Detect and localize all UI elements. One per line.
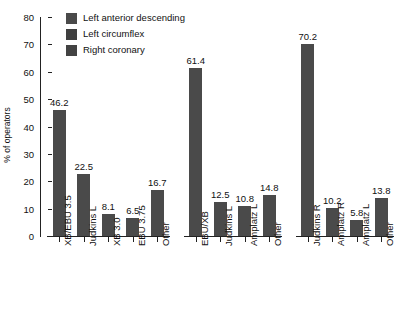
bar-value-label: 16.7 xyxy=(141,178,173,188)
legend-label: Left circumflex xyxy=(83,29,144,39)
bar-value-label: 14.8 xyxy=(253,183,285,193)
x-category-label: EBU 3.75 xyxy=(137,205,147,246)
y-tick-label: 10 xyxy=(12,204,34,214)
y-tick-mark xyxy=(48,127,52,128)
x-tick-mark xyxy=(59,237,60,242)
y-tick-label: 70 xyxy=(12,40,34,50)
x-category-label: XB 3.0 xyxy=(112,217,122,246)
chart-legend: Left anterior descendingLeft circumflexR… xyxy=(66,10,185,58)
x-category-label: Other xyxy=(273,222,283,246)
legend-item: Left anterior descending xyxy=(66,10,185,26)
y-tick-label: 80 xyxy=(12,13,34,23)
bar-value-label: 22.5 xyxy=(68,162,100,172)
x-tick-mark xyxy=(108,237,109,242)
y-tick-mark xyxy=(48,209,52,210)
y-tick-mark xyxy=(48,72,52,73)
y-axis-title: % of operators xyxy=(2,90,12,180)
x-tick-mark xyxy=(84,237,85,242)
legend-label: Right coronary xyxy=(83,45,145,55)
y-tick-label: 30 xyxy=(12,149,34,159)
legend-item: Left circumflex xyxy=(66,26,185,42)
bar-value-label: 46.2 xyxy=(43,98,75,108)
x-tick-mark xyxy=(220,237,221,242)
x-category-label: Amplatz L xyxy=(361,204,371,246)
x-tick-mark xyxy=(269,237,270,242)
y-tick-label: 40 xyxy=(12,122,34,132)
x-category-label: EBU/XB xyxy=(200,211,210,246)
x-category-label: Amplatz L xyxy=(249,204,259,246)
x-category-label: Other xyxy=(385,222,395,246)
y-tick-mark xyxy=(48,17,52,18)
y-tick-label: 60 xyxy=(12,67,34,77)
legend-swatch xyxy=(66,13,77,24)
y-tick-label: 50 xyxy=(12,95,34,105)
x-category-label: Judkins L xyxy=(224,206,234,246)
x-category-label: Judkins L xyxy=(88,206,98,246)
x-tick-mark xyxy=(245,237,246,242)
x-tick-mark xyxy=(133,237,134,242)
bar-value-label: 13.8 xyxy=(365,186,397,196)
y-axis-line xyxy=(40,17,41,237)
legend-swatch xyxy=(66,45,77,56)
x-category-label: Other xyxy=(161,222,171,246)
x-tick-mark xyxy=(308,237,309,242)
x-tick-mark xyxy=(157,237,158,242)
x-category-label: Judkins R xyxy=(312,204,322,246)
bar-value-label: 70.2 xyxy=(292,32,324,42)
x-tick-mark xyxy=(332,237,333,242)
x-tick-mark xyxy=(357,237,358,242)
y-axis-ticks: 01020304050607080 xyxy=(12,0,34,317)
y-tick-label: 20 xyxy=(12,177,34,187)
x-tick-mark xyxy=(196,237,197,242)
y-tick-mark xyxy=(48,154,52,155)
legend-label: Left anterior descending xyxy=(83,13,185,23)
legend-item: Right coronary xyxy=(66,42,185,58)
x-tick-mark xyxy=(381,237,382,242)
x-category-label: XB/EBU 3.5 xyxy=(63,195,73,246)
legend-swatch xyxy=(66,29,77,40)
y-tick-mark xyxy=(48,44,52,45)
y-tick-label: 0 xyxy=(12,232,34,242)
y-tick-mark xyxy=(48,181,52,182)
